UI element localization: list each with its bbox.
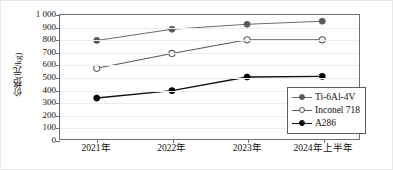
y-tick-label: 600	[43, 60, 57, 69]
data-point	[319, 18, 325, 24]
y-tick-mark	[56, 103, 60, 104]
y-tick-mark	[56, 40, 60, 41]
legend-marker-icon	[292, 118, 312, 129]
data-point	[94, 95, 100, 101]
y-tick-label: 100	[43, 123, 57, 132]
y-tick-label: 900	[43, 22, 57, 31]
legend-item-a286[interactable]: A286	[292, 117, 360, 130]
y-tick-label: 500	[43, 73, 57, 82]
data-point	[244, 21, 250, 27]
gridline	[60, 78, 359, 79]
x-tick-label: 2024年上半年	[294, 142, 353, 154]
y-tick-mark	[56, 15, 60, 16]
y-tick-label: 300	[43, 98, 57, 107]
chart-legend: Ti-6Al-4VInconel 718A286	[287, 87, 366, 134]
x-tick-label: 2021年	[82, 142, 111, 154]
series-line	[97, 21, 322, 40]
y-tick-mark	[56, 28, 60, 29]
y-tick-mark	[56, 91, 60, 92]
gridline	[60, 65, 359, 66]
y-axis-tick-labels: 01002003004005006007008009001 000	[22, 14, 58, 140]
legend-item-ti-6al-4v[interactable]: Ti-6Al-4V	[292, 91, 360, 104]
y-tick-label: 200	[43, 110, 57, 119]
legend-label: Ti-6Al-4V	[315, 92, 355, 103]
series-line	[97, 40, 322, 69]
y-tick-mark	[56, 116, 60, 117]
y-tick-mark	[56, 53, 60, 54]
x-axis-tick-labels: 2021年2022年2023年2024年上半年	[59, 142, 360, 160]
y-tick-label: 800	[43, 35, 57, 44]
y-tick-label: 700	[43, 47, 57, 56]
gridline	[60, 53, 359, 54]
gridline	[60, 40, 359, 41]
y-tick-label: 0	[52, 136, 57, 145]
legend-marker-icon	[292, 105, 312, 116]
legend-marker-icon	[292, 92, 312, 103]
legend-label: Inconel 718	[315, 105, 360, 116]
y-tick-label: 400	[43, 85, 57, 94]
y-tick-label: 1 000	[36, 10, 56, 19]
legend-label: A286	[315, 118, 336, 129]
gridline	[60, 28, 359, 29]
x-tick-label: 2023年	[233, 142, 262, 154]
x-tick-label: 2022年	[157, 142, 186, 154]
y-tick-mark	[56, 65, 60, 66]
y-tick-mark	[56, 128, 60, 129]
legend-item-inconel-718[interactable]: Inconel 718	[292, 104, 360, 117]
data-point	[244, 74, 250, 80]
y-tick-mark	[56, 78, 60, 79]
line-chart-figure: 价格(元/kg) 01002003004005006007008009001 0…	[0, 0, 393, 170]
